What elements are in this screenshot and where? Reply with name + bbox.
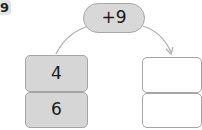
input-box-2: 6 — [25, 92, 88, 128]
output-box-1[interactable] — [142, 57, 202, 93]
input-box-1: 4 — [25, 55, 88, 92]
arrow-operator-to-output — [143, 26, 171, 52]
arrow-input-to-operator — [56, 27, 86, 54]
operator-oval: +9 — [83, 3, 145, 33]
output-box-2[interactable] — [142, 93, 202, 128]
